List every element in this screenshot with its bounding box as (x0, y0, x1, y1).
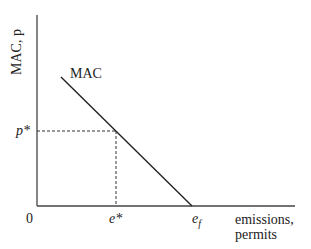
x-axis-label-line2: permits (235, 227, 294, 242)
x-axis-label: emissions, permits (235, 212, 294, 242)
e-f-label: ef (192, 212, 201, 229)
y-axis-label-text: MAC, p (9, 29, 24, 75)
e-star-label: e* (109, 212, 122, 226)
mac-curve (61, 77, 192, 206)
e-f-subscript: f (198, 218, 201, 229)
curve-label: MAC (70, 67, 102, 81)
x-axis-label-line1: emissions, (235, 212, 294, 227)
p-star-label: p* (16, 124, 30, 138)
y-axis-label: MAC, p (10, 21, 24, 83)
origin-label: 0 (26, 212, 33, 226)
